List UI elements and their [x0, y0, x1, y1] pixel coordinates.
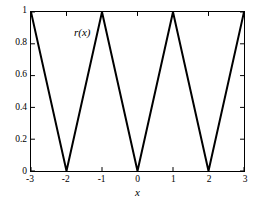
y-axis-tick-labels: 00.20.40.60.81	[0, 11, 27, 172]
x-tick-label: -3	[26, 175, 34, 185]
plot-svg	[31, 12, 244, 171]
tick-marks	[31, 12, 244, 171]
y-tick-label: 0.4	[15, 103, 27, 113]
x-tick-label: 2	[207, 175, 212, 185]
y-tick-label: 1	[22, 6, 27, 16]
x-tick-label: 0	[135, 175, 140, 185]
x-tick-label: -1	[98, 175, 106, 185]
x-axis-label: x	[30, 187, 245, 198]
x-tick-label: -2	[62, 175, 70, 185]
x-tick-label: 3	[243, 175, 248, 185]
series-annotation: r(x)	[74, 27, 91, 38]
y-tick-label: 0.2	[15, 135, 27, 145]
chart-figure: 00.20.40.60.81 r(x) -3-2-10123 x	[0, 0, 261, 204]
x-tick-label: 1	[171, 175, 176, 185]
series-line-rx	[31, 12, 244, 171]
y-tick-label: 0.8	[15, 38, 27, 48]
y-tick-label: 0.6	[15, 71, 27, 81]
plot-area: r(x)	[30, 11, 245, 172]
